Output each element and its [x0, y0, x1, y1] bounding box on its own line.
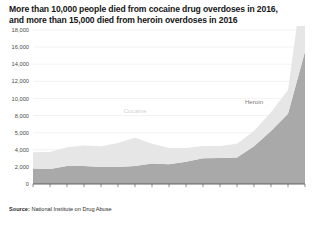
- x-tick-label: '13: [250, 190, 257, 192]
- source-text: National Institute on Drug Abuse: [30, 206, 112, 212]
- y-tick-label: 0: [26, 181, 29, 187]
- y-tick-labels-group: 02,0004,0005,0008,00010,00012,00014,0001…: [12, 27, 29, 187]
- x-tick-label: '06: [131, 190, 138, 192]
- chart-figure: More than 10,000 people died from cocain…: [0, 0, 314, 225]
- y-tick-label: 12,000: [12, 78, 29, 84]
- series-annotations-group: CocaineHeroin: [124, 98, 264, 114]
- x-tick-labels-group: 2000'01'02'03'04'05'06'07'08'09'10'11'12…: [27, 190, 312, 192]
- x-tick-label: '15: [284, 190, 291, 192]
- y-tick-label: 14,000: [12, 61, 29, 67]
- series-label-cocaine: Cocaine: [124, 107, 147, 114]
- x-tick-label: '09: [182, 190, 189, 192]
- x-tick-label: '02: [63, 190, 70, 192]
- y-tick-label: 4,000: [15, 147, 29, 153]
- title-line-2: and more than 15,000 died from heroin ov…: [9, 15, 305, 26]
- plot-area: 02,0004,0005,0008,00010,00012,00014,0001…: [0, 26, 314, 191]
- axes-group: [33, 184, 305, 187]
- stacked-area-chart: 02,0004,0005,0008,00010,00012,00014,0001…: [0, 26, 314, 191]
- chart-title: More than 10,000 people died from cocain…: [9, 4, 305, 26]
- x-tick-label: '07: [148, 190, 155, 192]
- y-tick-label: 18,000: [12, 27, 29, 33]
- x-tick-label: '01: [46, 190, 53, 192]
- series-areas-group: [33, 26, 305, 184]
- x-tick-label: 2016: [299, 190, 312, 192]
- y-tick-label: 10,000: [12, 96, 29, 102]
- y-tick-label: 16,000: [12, 44, 29, 50]
- x-tick-label: '03: [80, 190, 87, 192]
- y-tick-label: 2,000: [15, 164, 29, 170]
- source-prefix: Source:: [9, 206, 30, 212]
- x-tick-label: '04: [97, 190, 104, 192]
- y-tick-label: 5,000: [15, 130, 29, 136]
- x-tick-label: '05: [114, 190, 121, 192]
- y-tick-label: 8,000: [15, 113, 29, 119]
- x-tick-label: '12: [233, 190, 240, 192]
- title-line-1: More than 10,000 people died from cocain…: [9, 4, 305, 15]
- x-tick-label: '08: [165, 190, 172, 192]
- x-tick-label: 2000: [27, 190, 40, 192]
- series-label-heroin: Heroin: [245, 98, 264, 105]
- x-tick-label: '11: [217, 190, 224, 192]
- source-note: Source: National Institute on Drug Abuse: [9, 206, 112, 212]
- x-tick-label: '14: [267, 190, 274, 192]
- x-tick-label: '10: [199, 190, 206, 192]
